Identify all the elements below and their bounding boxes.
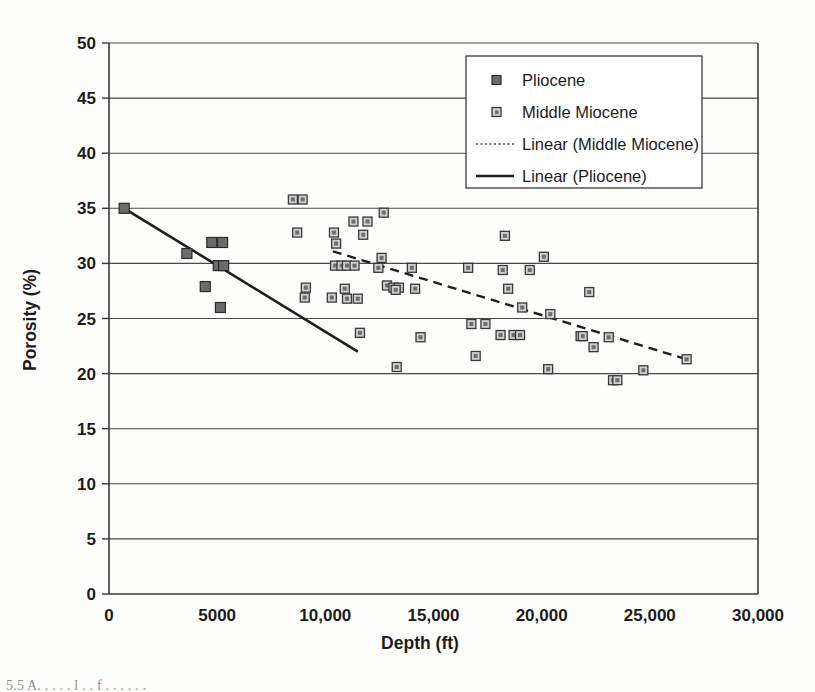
data-point-core [474,354,478,358]
data-point [200,282,210,292]
legend-marker-core [495,111,499,115]
y-tick-label: 25 [77,310,96,329]
data-point [182,248,192,258]
data-point-core [353,264,357,268]
data-point-core [303,296,307,300]
trendline [333,251,687,359]
data-points-pliocene [119,203,229,312]
data-point-core [395,365,399,369]
y-tick-label: 20 [77,365,96,384]
y-tick-label: 35 [77,199,96,218]
legend-marker [492,76,501,85]
x-axis-title: Depth (ft) [381,633,459,653]
legend-item-label: Linear (Middle Miocene) [522,135,699,153]
data-point-core [615,378,619,382]
data-point-core [345,297,349,301]
trendline [124,208,358,351]
data-point [218,237,228,247]
data-point-core [506,287,510,291]
y-tick-label: 50 [77,34,96,53]
data-point-core [413,287,417,291]
data-point-core [382,211,386,215]
data-point-core [332,231,336,235]
data-point-core [548,312,552,316]
y-tick-label: 40 [77,144,96,163]
data-point-core [641,368,645,372]
x-tick-label: 10,000 [299,606,351,625]
data-point-core [592,345,596,349]
data-point-core [587,290,591,294]
data-point-core [419,335,423,339]
data-point-core [501,268,505,272]
legend-item-label: Middle Miocene [522,103,638,121]
legend-item-label: Linear (Pliocene) [522,167,647,185]
scatter-chart: 05101520253035404550 0500010,00015,00020… [0,0,815,692]
y-tick-label: 30 [77,254,96,273]
y-tick-label: 10 [77,475,96,494]
data-point-core [518,333,522,337]
data-point-core [345,264,349,268]
data-point-core [356,297,360,301]
x-tick-label: 30,000 [732,606,784,625]
data-points-miocene [288,195,691,385]
x-tick-label: 25,000 [624,606,676,625]
data-point-core [301,197,305,201]
x-tick-label: 20,000 [516,606,568,625]
y-tick-label: 45 [77,89,96,108]
y-tick-label: 0 [87,585,96,604]
data-point-core [542,255,546,259]
legend: PlioceneMiddle MioceneLinear (Middle Mio… [466,56,702,188]
data-point-core [380,256,384,260]
data-point-core [295,231,299,235]
data-point-core [304,286,308,290]
data-point-core [581,334,585,338]
data-point [215,302,225,312]
data-point-core [394,288,398,292]
data-point-core [685,357,689,361]
x-tick-label: 5000 [198,606,236,625]
y-tick-label: 5 [87,530,96,549]
x-tick-label: 0 [104,606,113,625]
data-point [219,261,229,271]
data-point-core [330,296,334,300]
data-point-core [358,331,362,335]
data-point-core [376,266,380,270]
data-point-core [528,268,532,272]
data-point-core [469,322,473,326]
data-point-core [546,367,550,371]
data-point [207,237,217,247]
figure-caption: 5.5 A. . . . . l . . f . . . . . . [6,678,146,692]
data-point-core [351,220,355,224]
data-point-core [499,333,503,337]
data-point-core [607,335,611,339]
x-tick-label: 15,000 [408,606,460,625]
data-point-core [334,242,338,246]
y-tick-label: 15 [77,420,96,439]
data-point-core [483,322,487,326]
y-axis-ticks [102,43,109,594]
data-point-core [291,197,295,201]
data-point-core [343,287,347,291]
data-point-core [361,233,365,237]
data-point-core [466,266,470,270]
data-point-core [366,220,370,224]
legend-item-label: Pliocene [522,71,585,89]
data-point-core [520,305,524,309]
y-axis-title: Porosity (%) [20,269,40,371]
data-point-core [503,234,507,238]
y-axis-tick-labels: 05101520253035404550 [77,34,96,604]
x-axis-tick-labels: 0500010,00015,00020,00025,00030,000 [104,606,784,625]
figure-container: 05101520253035404550 0500010,00015,00020… [0,0,815,692]
data-point-core [410,266,414,270]
data-point [119,203,129,213]
